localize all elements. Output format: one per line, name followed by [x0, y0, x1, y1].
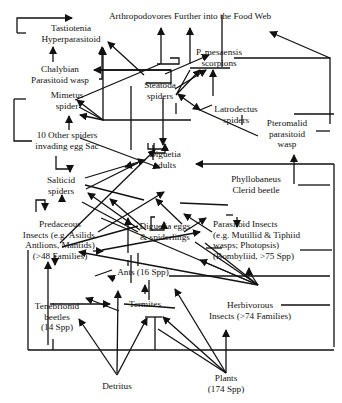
connector-line	[14, 120, 32, 141]
node-label-line: Plants	[215, 373, 238, 383]
arrow-edge	[99, 47, 102, 79]
food-web-diagram: Arthropodovores Further into the Food We…	[0, 0, 342, 403]
node-label-line: Salticid	[47, 175, 75, 185]
node-label-line: Latrodectus	[214, 104, 258, 114]
connector-line	[95, 270, 112, 276]
node-label-line: Antlions, Mantids)	[25, 240, 94, 250]
node-pteromalid: Pteromalidparasitoidwasp	[267, 118, 308, 149]
node-label-line: P. mesaensis	[196, 47, 242, 57]
node-label-line: Insects (>74 Families)	[209, 311, 291, 321]
node-label-line: Ants (16 Spp)	[117, 267, 169, 277]
node-plants: Plants(174 Spp)	[208, 373, 245, 394]
node-label-line: (e.g. Mutillid & Tiphiid	[213, 230, 300, 240]
node-label-line: Tastiotenia	[51, 23, 91, 33]
node-label-line: Parasitoid Insects	[213, 219, 278, 229]
node-label-line: Predaceous	[39, 219, 81, 229]
node-label-line: Clerid beetle	[232, 185, 279, 195]
arrow-edge	[186, 100, 200, 110]
node-mesaensis: P. mesaensisscorpions	[196, 47, 242, 68]
node-top: Arthropodovores Further into the Food We…	[109, 11, 272, 21]
node-label-line: parasitoid	[269, 129, 306, 139]
node-label-line: Steatoda	[144, 80, 176, 90]
node-label-line: Tenebrionid	[35, 301, 80, 311]
node-label-line: spiders	[48, 186, 74, 196]
arrow-edge	[163, 317, 226, 373]
node-label-line: wasp	[278, 139, 297, 149]
node-latrodectus: Latrodectusspiders	[214, 104, 258, 125]
node-label-line: Detritus	[102, 381, 132, 391]
node-detritus: Detritus	[102, 381, 132, 391]
node-label-line: beetles	[44, 312, 70, 322]
node-tenebrionid: Tenebrionidbeetles(14 Spp)	[35, 301, 80, 332]
connector-line	[82, 202, 138, 232]
node-label-line: spider	[56, 101, 78, 111]
node-steatoda: Steatodaspiders	[144, 80, 176, 101]
node-ants: Ants (16 Spp)	[117, 267, 169, 277]
arrow-edge	[56, 156, 70, 172]
node-label-line: scorpions	[201, 58, 237, 68]
arrow-edge	[36, 200, 45, 212]
node-label-line: invading egg Sac	[35, 141, 98, 151]
node-termites: Termites	[129, 299, 161, 309]
node-label-line: Diguetia eggs	[140, 221, 191, 231]
node-label-line: spiders	[223, 115, 249, 125]
connector-line	[180, 203, 228, 205]
node-label-line: spiders	[147, 91, 173, 101]
node-label-line: wasps; Photopsis)	[213, 240, 279, 250]
arrow-edge	[108, 276, 115, 279]
node-tastiotenia: TastioteniaHyperparasitoid	[41, 23, 101, 44]
node-label-line: Chalybian	[41, 64, 79, 74]
node-label-line: Insects (e.g. Asilids,	[23, 230, 97, 240]
node-diguetia-adults: Diguetiaadults	[149, 149, 181, 170]
node-label-line: adults	[154, 160, 176, 170]
node-label-line: Hyperparasitoid	[41, 34, 101, 44]
node-predaceous: PredaceousInsects (e.g. Asilids,Antlions…	[23, 219, 97, 261]
node-label-line: (Bombyliid, >75 Spp)	[213, 251, 294, 261]
node-chalybian: ChalybianParasitoid wasp	[31, 64, 89, 85]
arrow-edge	[79, 319, 117, 375]
node-label-line: & spiderlings	[140, 232, 190, 242]
node-label-line: (>48 Families)	[33, 251, 87, 261]
node-label-line: Diguetia	[149, 149, 181, 159]
connector-line	[157, 58, 179, 64]
node-layer: Arthropodovores Further into the Food We…	[23, 11, 308, 394]
node-label-line: Phyllobaneus	[231, 174, 281, 184]
node-diguetia-eggs: Diguetia eggs& spiderlings	[140, 221, 191, 242]
node-label-line: Arthropodovores Further into the Food We…	[109, 11, 272, 21]
connector-line	[158, 329, 226, 373]
node-parasitoid-insects: Parasitoid Insects(e.g. Mutillid & Tiphi…	[213, 219, 300, 261]
arrow-edge	[176, 70, 200, 95]
node-label-line: Parasitoid wasp	[31, 75, 89, 85]
node-label-line: Termites	[129, 299, 161, 309]
node-label-line: Mimetus	[51, 90, 84, 100]
arrow-edge	[270, 32, 330, 58]
arrow-edge	[178, 94, 186, 100]
arrow-edge	[117, 291, 118, 373]
arrow-edge	[175, 289, 226, 373]
node-label-line: Herbivorous	[227, 300, 273, 310]
node-other-spiders: 10 Other spidersinvading egg Sac	[35, 130, 98, 151]
node-label-line: Pteromalid	[267, 118, 308, 128]
node-label-line: (14 Spp)	[41, 322, 73, 332]
node-label-line: (174 Spp)	[208, 384, 245, 394]
node-salticid: Salticidspiders	[47, 175, 75, 196]
node-phyllobaneus: PhyllobaneusClerid beetle	[231, 174, 281, 195]
arrow-edge	[117, 318, 147, 375]
node-herbivorous: HerbivorousInsects (>74 Families)	[209, 300, 291, 321]
node-label-line: 10 Other spiders	[37, 130, 98, 140]
